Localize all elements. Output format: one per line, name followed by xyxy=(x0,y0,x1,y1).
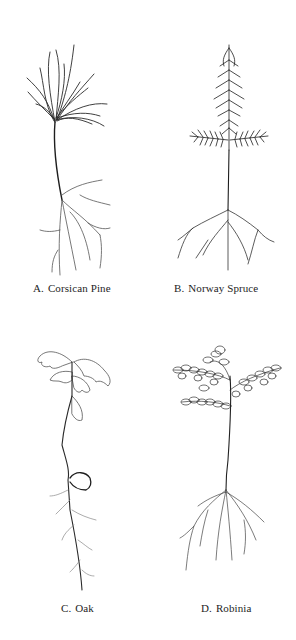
caption-name: Norway Spruce xyxy=(188,282,258,294)
panel-corsican-pine: A.Corsican Pine xyxy=(0,0,148,300)
caption-robinia: D.Robinia xyxy=(201,602,251,614)
corsican-pine-illustration xyxy=(0,0,148,300)
robinia-illustration xyxy=(148,310,296,610)
caption-norway-spruce: B.Norway Spruce xyxy=(174,282,258,294)
norway-spruce-illustration xyxy=(148,0,296,300)
caption-oak: C.Oak xyxy=(61,602,94,614)
caption-name: Robinia xyxy=(216,602,252,614)
caption-corsican-pine: A.Corsican Pine xyxy=(33,282,111,294)
panel-robinia: D.Robinia xyxy=(148,310,296,620)
caption-name: Corsican Pine xyxy=(48,282,111,294)
caption-letter: A. xyxy=(33,282,44,294)
caption-letter: C. xyxy=(61,602,71,614)
oak-illustration xyxy=(0,310,148,610)
panel-norway-spruce: B.Norway Spruce xyxy=(148,0,296,300)
caption-letter: B. xyxy=(174,282,184,294)
caption-name: Oak xyxy=(75,602,94,614)
panel-oak: C.Oak xyxy=(0,310,148,620)
caption-letter: D. xyxy=(201,602,212,614)
